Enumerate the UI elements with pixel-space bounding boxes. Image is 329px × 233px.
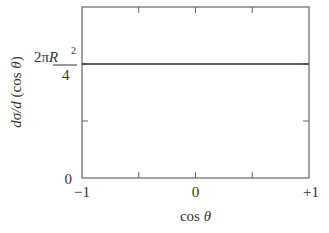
svg-text:4: 4 (62, 67, 70, 83)
chart-figure: −1 0 +1 cos θ 0 2πR 2 4 dσ/d (cos θ) (0, 0, 329, 233)
x-ticks-top (139, 7, 253, 13)
svg-text:2: 2 (71, 45, 76, 56)
x-ticks-bottom (139, 172, 253, 178)
y-axis-label: dσ/d (cos θ) (8, 56, 25, 127)
y-ticks-right (303, 64, 309, 121)
x-tick-label-zero: 0 (192, 184, 200, 200)
x-tick-label-max: +1 (303, 184, 319, 200)
x-axis-label: cos θ (180, 208, 212, 224)
y-tick-label-zero: 0 (65, 171, 73, 187)
x-tick-label-min: −1 (74, 184, 90, 200)
y-tick-label-value: 2πR 2 4 (34, 45, 77, 83)
plot-frame (82, 7, 309, 178)
svg-text:2πR: 2πR (34, 49, 58, 65)
y-ticks-left (82, 64, 88, 121)
